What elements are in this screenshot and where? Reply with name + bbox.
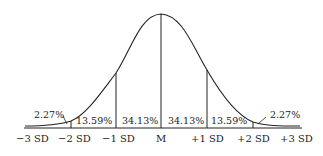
plus-1-to-2-percent: 13.59% (211, 116, 247, 126)
minus-1-to-mean-percent: 34.13% (122, 116, 158, 126)
bell-curve (25, 14, 300, 126)
axis-label-minus-1sd: −1 SD (102, 134, 135, 144)
axis-label-minus-3sd: −3 SD (16, 134, 49, 144)
axis-label-plus-1sd: +1 SD (191, 134, 224, 144)
right-tail-pointer (258, 117, 266, 124)
minus-2-to-1-percent: 13.59% (76, 116, 112, 126)
axis-label-minus-2sd: −2 SD (58, 134, 91, 144)
axis-label-mean: M (156, 134, 166, 144)
right-tail-percent: 2.27% (270, 110, 300, 120)
left-tail-percent: 2.27% (34, 110, 64, 120)
mean-to-plus-1-percent: 34.13% (168, 116, 204, 126)
normal-distribution-diagram: 2.27% 13.59% 34.13% 34.13% 13.59% 2.27% … (0, 0, 323, 156)
axis-label-plus-2sd: +2 SD (237, 134, 270, 144)
axis-label-plus-3sd: +3 SD (280, 134, 313, 144)
